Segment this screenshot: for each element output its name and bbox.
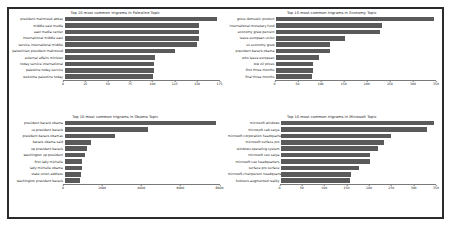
chart-grid: Top 10 most common trigrams in Palestine… [9, 9, 442, 217]
panel-obama: Top 10 most common trigrams in Obama Top… [9, 113, 226, 217]
bar [276, 42, 330, 47]
figure-frame: Top 10 most common trigrams in Palestine… [7, 7, 444, 219]
x-axis-palestine: 0255075100125150175 [11, 80, 220, 87]
x-tick-label: 150 [344, 186, 350, 191]
x-tick-label: 0 [279, 186, 281, 191]
bar-label: gross domestic product [228, 17, 277, 21]
bar [276, 68, 313, 73]
screenshot-root: Top 10 most common trigrams in Palestine… [0, 0, 451, 226]
bar [65, 36, 200, 41]
axis-spacer [228, 80, 275, 87]
bar [65, 74, 154, 79]
bar [65, 23, 200, 28]
x-axis-economy: 050100150200250300350 [228, 80, 437, 87]
bar [65, 68, 154, 73]
bar-label: final three months [228, 75, 277, 79]
x-tick-label: 150 [194, 82, 200, 87]
bar-label: first three months [228, 68, 277, 72]
x-axis-scale-obama: 02000400060008000 [63, 184, 220, 191]
bar [65, 146, 87, 151]
x-tick-label: 250 [387, 82, 393, 87]
bar-label: international middle east [11, 36, 65, 40]
bar-label: welcome palestine today [11, 75, 65, 79]
bar-label: state union address [11, 172, 65, 176]
bar-label: who leave european [228, 56, 277, 60]
bar [65, 178, 81, 183]
plot-area-palestine: president mahmoud abbasmiddle east media… [11, 16, 220, 87]
bar-label: windows operating system [228, 147, 282, 151]
bar [281, 166, 359, 171]
bar-label: leave european union [228, 36, 277, 40]
x-tick-labels: 02000400060008000 [63, 185, 220, 191]
bar [281, 153, 370, 158]
bar [281, 178, 350, 183]
bar [65, 127, 148, 132]
x-tick-label: 300 [410, 82, 416, 87]
x-tick-label: 100 [149, 82, 155, 87]
bar [281, 121, 434, 126]
axis-spacer [11, 80, 63, 87]
bar [281, 172, 351, 177]
bar-label: barack obama said [11, 140, 65, 144]
x-tick-label: 8000 [216, 186, 224, 191]
bar-rows-microsoft: microsoft windowsmicrosoft cab satyamicr… [228, 120, 437, 184]
x-axis-scale-microsoft: 050100150200250300350 [280, 184, 437, 191]
bar-label: microsoft corporation headquarters [228, 134, 282, 138]
bar [65, 30, 200, 35]
bar [276, 49, 330, 54]
bar-label: microsoft windows [228, 121, 282, 125]
bar-rows-palestine: president mahmoud abbasmiddle east media… [11, 16, 220, 80]
bar [281, 127, 427, 132]
bar-rows-obama: president barack obamaus president barac… [11, 120, 220, 184]
bar [65, 42, 198, 47]
x-tick-label: 150 [341, 82, 347, 87]
x-axis-scale-economy: 050100150200250300350 [275, 80, 437, 87]
bar [281, 159, 370, 164]
plot-area-economy: gross domestic productinternational mone… [228, 16, 437, 87]
bar-label: lady michelle obama [11, 166, 65, 170]
x-tick-label: 250 [388, 186, 394, 191]
bar [276, 36, 345, 41]
axis-spacer [228, 184, 280, 191]
bar [65, 121, 216, 126]
plot-area-microsoft: microsoft windowsmicrosoft cab satyamicr… [228, 120, 437, 191]
x-tick-label: 0 [62, 82, 64, 87]
panel-palestine: Top 10 most common trigrams in Palestine… [9, 9, 226, 113]
bar-label: today service international [11, 62, 65, 66]
x-tick-labels: 050100150200250300350 [280, 185, 437, 191]
bar [65, 153, 85, 158]
bar-label: up president barack [11, 147, 65, 151]
x-tick-label: 50 [300, 186, 304, 191]
bar-label: palestine today service [11, 68, 65, 72]
x-tick-label: 50 [296, 82, 300, 87]
x-axis-microsoft: 050100150200250300350 [228, 184, 437, 191]
bar [276, 55, 319, 60]
bar-label: microsoft ceo satya [228, 153, 282, 157]
bar [65, 166, 82, 171]
bar-label: hololens augmented reality [228, 179, 282, 183]
x-tick-label: 350 [433, 186, 439, 191]
axis-spacer [11, 184, 63, 191]
panel-economy: Top 10 most common trigrams in Economy T… [226, 9, 443, 113]
bar-label: us economy grew [228, 43, 277, 47]
x-tick-label: 100 [318, 82, 324, 87]
bar-label: service international middle [11, 43, 65, 47]
bar [65, 134, 115, 139]
bar [65, 62, 154, 67]
bar [276, 74, 312, 79]
bar [65, 49, 176, 54]
bar-label: external affairs minister [11, 56, 65, 60]
bar-rows-economy: gross domestic productinternational mone… [228, 16, 437, 80]
bar [276, 30, 380, 35]
bar-label: first lady michelle [11, 160, 65, 164]
x-axis-obama: 02000400060008000 [11, 184, 220, 191]
x-axis-scale-palestine: 0255075100125150175 [63, 80, 220, 87]
bar-label: international monetary fund [228, 24, 277, 28]
bar-label: microsoft cab satya [228, 128, 282, 132]
x-tick-label: 200 [364, 82, 370, 87]
bar-label: economy grew percent [228, 30, 277, 34]
bar [281, 134, 391, 139]
bar [281, 146, 378, 151]
x-tick-label: 300 [411, 186, 417, 191]
bar [276, 17, 434, 22]
